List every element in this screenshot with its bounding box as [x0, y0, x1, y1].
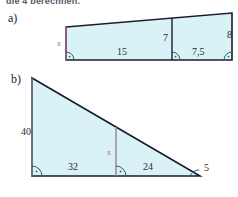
shape-a-left-side-label: x: [57, 40, 61, 48]
shape-b-bottom-right-label: 24: [143, 162, 153, 172]
shape-b-left-side-label: 40: [21, 127, 31, 137]
part-b-letter: b): [11, 73, 21, 85]
clipped-header-text: die 4 berechnen.: [6, 0, 80, 6]
part-a-letter: a): [8, 12, 17, 24]
shape-b-right-side-label: 5: [204, 163, 209, 173]
shape-a-group: [66, 13, 232, 60]
shape-a-inner-vertical-label: 7: [163, 33, 168, 43]
geometry-figure-canvas: [0, 0, 238, 197]
shape-b-inner-vertical-label: x: [107, 149, 111, 157]
shape-a-bottom-right-label: 7,5: [192, 47, 205, 57]
shape-b-bottom-left-label: 32: [68, 162, 78, 172]
shape-a-right-side-label: 8: [227, 30, 232, 40]
shape-a-bottom-left-label: 15: [117, 47, 127, 57]
shape-b-group: [32, 78, 200, 176]
